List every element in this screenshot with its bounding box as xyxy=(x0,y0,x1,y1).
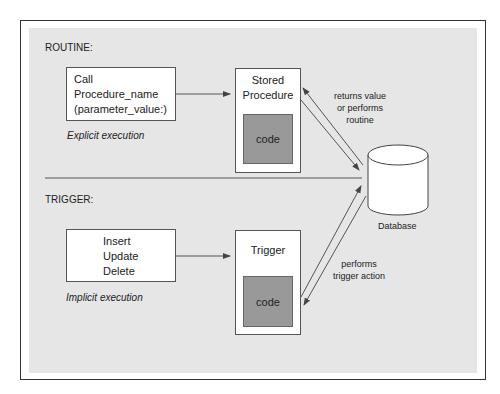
implicit-execution-label: Implicit execution xyxy=(66,292,143,303)
trigger-action-label: performs trigger action xyxy=(327,258,391,282)
call-line-3: (parameter_value:) xyxy=(74,102,167,117)
call-line-2: Procedure_name xyxy=(74,87,167,102)
call-procedure-box: Call Procedure_name (parameter_value:) xyxy=(66,67,176,121)
trigger-title: Trigger xyxy=(236,243,300,258)
sp-title-line-2: Procedure xyxy=(236,88,300,103)
event-update: Update xyxy=(103,249,138,264)
stored-procedure-box: Stored Procedure code xyxy=(235,68,301,173)
trigger-box: Trigger code xyxy=(235,230,301,335)
call-line-1: Call xyxy=(74,72,167,87)
db-to-trigger-arrow xyxy=(304,196,366,305)
dml-events-box: Insert Update Delete xyxy=(66,229,176,282)
sp-title-line-1: Stored xyxy=(236,73,300,88)
returns-value-label: returns value or performs routine xyxy=(330,90,390,126)
event-delete: Delete xyxy=(103,264,138,279)
database-label: Database xyxy=(378,221,417,231)
trigger-code-block: code xyxy=(243,276,293,327)
database-cylinder-icon xyxy=(368,145,428,215)
explicit-execution-label: Explicit execution xyxy=(67,130,144,141)
trigger-heading: TRIGGER: xyxy=(45,194,93,205)
routine-heading: ROUTINE: xyxy=(45,42,93,53)
sp-code-block: code xyxy=(243,114,293,164)
event-insert: Insert xyxy=(103,234,138,249)
